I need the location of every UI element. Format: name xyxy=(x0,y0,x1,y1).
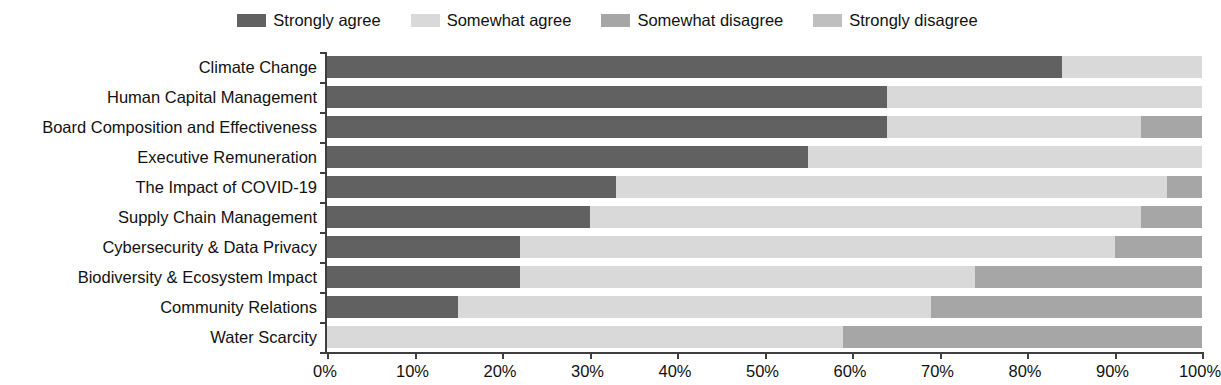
x-axis-tick xyxy=(327,352,329,359)
bar-segment[interactable] xyxy=(327,236,520,258)
bar-segment[interactable] xyxy=(887,86,1202,108)
legend-item[interactable]: Somewhat agree xyxy=(411,12,572,29)
category-label: Human Capital Management xyxy=(0,88,317,107)
table-row[interactable] xyxy=(327,296,1202,318)
chart-legend: Strongly agreeSomewhat agreeSomewhat dis… xyxy=(0,12,1215,29)
category-label: Supply Chain Management xyxy=(0,208,317,227)
x-axis-tick-label: 100% xyxy=(1179,362,1221,381)
y-axis-tick xyxy=(320,172,327,174)
table-row[interactable] xyxy=(327,86,1202,108)
legend-item[interactable]: Somewhat disagree xyxy=(601,12,783,29)
bar-segment[interactable] xyxy=(1115,236,1203,258)
category-label: Board Composition and Effectiveness xyxy=(0,118,317,137)
x-axis-tick-label: 0% xyxy=(313,362,337,381)
x-axis-tick xyxy=(765,352,767,359)
y-axis-tick xyxy=(320,142,327,144)
bar-segment[interactable] xyxy=(520,236,1115,258)
table-row[interactable] xyxy=(327,146,1202,168)
legend-item-label: Strongly disagree xyxy=(849,12,977,29)
x-axis-tick xyxy=(590,352,592,359)
y-axis-tick xyxy=(320,112,327,114)
x-axis-tick-label: 80% xyxy=(1008,362,1041,381)
x-axis-labels: 0%10%20%30%40%50%60%70%80%90%100% xyxy=(325,362,1200,384)
bar-segment[interactable] xyxy=(327,116,887,138)
x-axis-tick xyxy=(852,352,854,359)
x-axis-tick xyxy=(1202,352,1204,359)
category-label: Community Relations xyxy=(0,298,317,317)
y-axis-tick xyxy=(320,52,327,54)
bar-segment[interactable] xyxy=(520,266,975,288)
x-axis-tick xyxy=(940,352,942,359)
bar-segment[interactable] xyxy=(327,146,808,168)
bar-segment[interactable] xyxy=(1141,206,1202,228)
x-axis-tick-label: 70% xyxy=(921,362,954,381)
y-axis-tick xyxy=(320,292,327,294)
table-row[interactable] xyxy=(327,266,1202,288)
y-axis-tick xyxy=(320,352,327,354)
x-axis-tick-label: 50% xyxy=(746,362,779,381)
bar-segment[interactable] xyxy=(590,206,1141,228)
legend-item-label: Strongly agree xyxy=(273,12,380,29)
legend-swatch-icon xyxy=(237,14,266,27)
bar-segment[interactable] xyxy=(327,86,887,108)
x-axis-tick-label: 10% xyxy=(396,362,429,381)
bar-segment[interactable] xyxy=(975,266,1203,288)
table-row[interactable] xyxy=(327,236,1202,258)
category-label: Climate Change xyxy=(0,58,317,77)
bar-segment[interactable] xyxy=(327,56,1062,78)
category-label: The Impact of COVID-19 xyxy=(0,178,317,197)
table-row[interactable] xyxy=(327,206,1202,228)
bar-segment[interactable] xyxy=(808,146,1202,168)
table-row[interactable] xyxy=(327,176,1202,198)
category-label: Cybersecurity & Data Privacy xyxy=(0,238,317,257)
bar-segment[interactable] xyxy=(616,176,1167,198)
legend-item-label: Somewhat disagree xyxy=(637,12,783,29)
bar-segment[interactable] xyxy=(843,326,1202,348)
bar-segment[interactable] xyxy=(1141,116,1202,138)
y-axis-tick xyxy=(320,202,327,204)
bar-segment[interactable] xyxy=(887,116,1141,138)
category-axis-labels: Climate ChangeHuman Capital ManagementBo… xyxy=(0,52,317,352)
x-axis-tick-label: 90% xyxy=(1096,362,1129,381)
x-axis-tick xyxy=(502,352,504,359)
bar-segment[interactable] xyxy=(327,176,616,198)
x-axis-tick-label: 40% xyxy=(658,362,691,381)
y-axis-tick xyxy=(320,262,327,264)
x-axis-tick xyxy=(1115,352,1117,359)
bar-segment[interactable] xyxy=(1167,176,1202,198)
x-axis-tick-label: 30% xyxy=(571,362,604,381)
plot-area xyxy=(325,52,1202,354)
bar-rows xyxy=(327,52,1202,352)
category-label: Water Scarcity xyxy=(0,328,317,347)
bar-segment[interactable] xyxy=(1062,56,1202,78)
bar-segment[interactable] xyxy=(458,296,931,318)
legend-swatch-icon xyxy=(411,14,440,27)
bar-segment[interactable] xyxy=(931,296,1202,318)
category-label: Biodiversity & Ecosystem Impact xyxy=(0,268,317,287)
x-axis-tick-label: 60% xyxy=(833,362,866,381)
legend-item-label: Somewhat agree xyxy=(447,12,572,29)
bar-segment[interactable] xyxy=(327,266,520,288)
table-row[interactable] xyxy=(327,326,1202,348)
legend-item[interactable]: Strongly agree xyxy=(237,12,380,29)
legend-swatch-icon xyxy=(601,14,630,27)
bar-segment[interactable] xyxy=(327,326,843,348)
bar-segment[interactable] xyxy=(327,206,590,228)
x-axis-tick xyxy=(677,352,679,359)
table-row[interactable] xyxy=(327,56,1202,78)
legend-swatch-icon xyxy=(813,14,842,27)
y-axis-tick xyxy=(320,322,327,324)
y-axis-tick xyxy=(320,82,327,84)
category-label: Executive Remuneration xyxy=(0,148,317,167)
x-axis-tick-label: 20% xyxy=(483,362,516,381)
table-row[interactable] xyxy=(327,116,1202,138)
bar-segment[interactable] xyxy=(327,296,458,318)
x-axis-tick xyxy=(1027,352,1029,359)
x-axis-tick xyxy=(415,352,417,359)
legend-item[interactable]: Strongly disagree xyxy=(813,12,977,29)
y-axis-tick xyxy=(320,232,327,234)
